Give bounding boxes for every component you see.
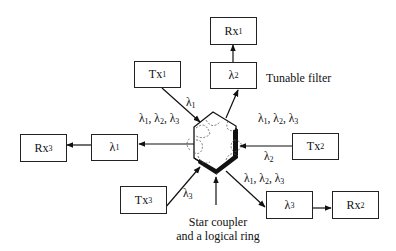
tx2-wavelength-label: λ2 xyxy=(264,151,274,164)
tx3-wavelength-sub: 3 xyxy=(189,192,193,201)
filter-top-sub: 2 xyxy=(234,71,238,80)
filter-lambda3-sub: 3 xyxy=(290,201,294,210)
top-right-all-wavelengths-label: λ1, λ2, λ3 xyxy=(258,113,298,126)
tx1-wavelength-sub: 1 xyxy=(192,101,196,110)
left-all-wavelengths-label: λ1, λ2, λ3 xyxy=(139,113,179,126)
tx2-wavelength-sub: 2 xyxy=(270,155,274,164)
tx1-box: Tx1 xyxy=(134,61,181,88)
rx2-label: Rx xyxy=(346,198,360,213)
rx3-sub: 3 xyxy=(49,144,53,153)
tx3-label: Tx xyxy=(135,193,148,208)
tx1-label: Tx xyxy=(149,67,162,82)
tx2-box: Tx2 xyxy=(292,133,339,160)
rx3-box: Rx3 xyxy=(20,134,67,162)
tx2-label: Tx xyxy=(307,139,320,154)
rx2-box: Rx2 xyxy=(332,191,379,219)
caption-line2: and a logical ring xyxy=(175,229,261,243)
filter-lambda3-box: λ3 xyxy=(266,191,313,219)
rx1-box: Rx1 xyxy=(210,17,257,45)
star-coupler-caption: Star coupler and a logical ring xyxy=(175,215,261,243)
filter-left-sub: 1 xyxy=(115,143,119,152)
rx1-label: Rx xyxy=(224,24,238,39)
tx3-box: Tx3 xyxy=(120,186,167,214)
edge-coupler-filter-top xyxy=(226,90,238,118)
rx1-sub: 1 xyxy=(239,27,243,36)
rx3-label: Rx xyxy=(34,141,48,156)
filter-left-box: λ1 xyxy=(91,134,138,161)
filter-top-box: λ2 xyxy=(210,62,257,89)
bottom-right-all-wavelengths-label: λ1, λ2, λ3 xyxy=(244,173,284,186)
tx1-wavelength-label: λ1 xyxy=(186,97,196,110)
tx1-sub: 1 xyxy=(162,70,166,79)
tx2-sub: 2 xyxy=(320,142,324,151)
rx2-sub: 2 xyxy=(361,201,365,210)
tx3-wavelength-label: λ3 xyxy=(183,188,193,201)
tunable-filter-label: Tunable filter xyxy=(266,72,331,84)
tx3-sub: 3 xyxy=(148,196,152,205)
caption-line1: Star coupler xyxy=(175,215,261,229)
